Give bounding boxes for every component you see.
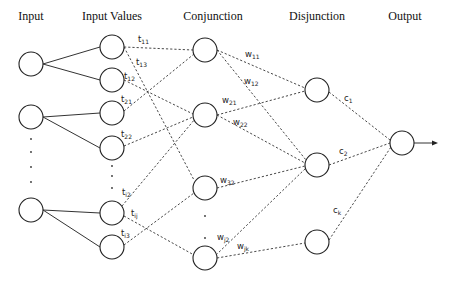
ellipsis-dot bbox=[30, 151, 32, 153]
output-arrow bbox=[414, 141, 438, 146]
edge-in3-iv5 bbox=[43, 210, 100, 213]
edge-t13 bbox=[124, 47, 194, 180]
node-conjunction-1 bbox=[193, 38, 217, 62]
edge-t21 bbox=[124, 54, 194, 111]
arrowhead-icon bbox=[432, 141, 438, 146]
edge-in2-iv4 bbox=[43, 117, 100, 148]
node-conjunction-2 bbox=[193, 103, 217, 127]
label-w32: w32 bbox=[220, 175, 235, 186]
label-t13: t13 bbox=[136, 57, 147, 68]
label-w21: w21 bbox=[222, 95, 237, 106]
input-value-nodes bbox=[100, 35, 124, 259]
dashed-edges-c bbox=[329, 92, 391, 240]
edge-in1-iv1 bbox=[43, 47, 100, 64]
label-t21: t21 bbox=[121, 94, 132, 105]
label-c1: c1 bbox=[344, 93, 353, 104]
header-output: Output bbox=[388, 9, 422, 23]
label-w11: w11 bbox=[245, 49, 260, 60]
node-disjunction-1 bbox=[305, 78, 329, 102]
label-t22: t22 bbox=[121, 129, 132, 140]
label-ck: ck bbox=[333, 205, 342, 216]
node-input-value-3 bbox=[100, 101, 124, 125]
conjunction-nodes bbox=[193, 38, 217, 270]
diagram-canvas: Input Input Values Conjunction Disjuncti… bbox=[0, 0, 454, 282]
ellipsis-dot bbox=[30, 181, 32, 183]
ellipsis-dot bbox=[204, 215, 206, 217]
label-t12: t12 bbox=[124, 71, 135, 82]
node-input-value-2 bbox=[100, 68, 124, 92]
edge-t11 bbox=[124, 47, 193, 50]
label-ti3: ti3 bbox=[121, 228, 130, 239]
output-nodes bbox=[390, 131, 414, 155]
edge-ck bbox=[329, 147, 391, 240]
node-input-3 bbox=[19, 198, 43, 222]
label-t11: t11 bbox=[138, 34, 149, 45]
node-input-value-5 bbox=[100, 201, 124, 225]
node-disjunction-3 bbox=[305, 230, 329, 254]
label-w22: w22 bbox=[233, 117, 248, 128]
disjunction-nodes bbox=[305, 78, 329, 254]
edge-labels: t11 t13 t12 t21 t22 ti2 tij ti3 w11 w12 … bbox=[121, 34, 353, 253]
label-wjk: wjk bbox=[237, 241, 250, 253]
ellipsis-dot bbox=[204, 237, 206, 239]
label-ti2: ti2 bbox=[122, 187, 131, 198]
label-c2: c2 bbox=[339, 146, 348, 157]
column-headers: Input Input Values Conjunction Disjuncti… bbox=[18, 9, 422, 23]
node-disjunction-2 bbox=[305, 153, 329, 177]
node-input-value-1 bbox=[100, 35, 124, 59]
header-disjunction: Disjunction bbox=[289, 9, 345, 23]
label-w12: w12 bbox=[244, 76, 259, 87]
ellipsis-dot bbox=[30, 138, 32, 140]
solid-edges bbox=[43, 47, 100, 247]
node-input-1 bbox=[19, 52, 43, 76]
ellipsis-dot bbox=[111, 165, 113, 167]
node-input-value-6 bbox=[100, 235, 124, 259]
edge-in1-iv2 bbox=[43, 64, 100, 80]
edge-in2-iv3 bbox=[43, 113, 100, 117]
node-input-value-4 bbox=[100, 136, 124, 160]
ellipsis-dot bbox=[111, 175, 113, 177]
dashed-edges-w bbox=[216, 50, 306, 258]
header-input-values: Input Values bbox=[82, 9, 142, 23]
node-conjunction-3 bbox=[193, 176, 217, 200]
label-tij: tij bbox=[131, 208, 138, 220]
header-input: Input bbox=[18, 9, 44, 23]
header-conjunction: Conjunction bbox=[183, 9, 242, 23]
edge-c1 bbox=[329, 92, 390, 140]
input-nodes bbox=[19, 52, 43, 222]
edge-t12 bbox=[124, 80, 193, 114]
edge-in3-iv6 bbox=[43, 210, 100, 247]
node-output bbox=[390, 131, 414, 155]
edge-w22 bbox=[217, 115, 305, 163]
edge-t22 bbox=[124, 117, 193, 146]
ellipsis-dot bbox=[111, 187, 113, 189]
edge-ti2 bbox=[122, 119, 195, 206]
node-conjunction-4 bbox=[193, 246, 217, 270]
edge-tij bbox=[124, 216, 194, 255]
edge-ti3 bbox=[124, 193, 194, 245]
edge-wjk bbox=[217, 243, 305, 258]
node-input-2 bbox=[19, 105, 43, 129]
edge-w11 bbox=[217, 50, 305, 88]
label-wj2: wj2 bbox=[217, 232, 230, 244]
ellipsis-dot bbox=[30, 166, 32, 168]
